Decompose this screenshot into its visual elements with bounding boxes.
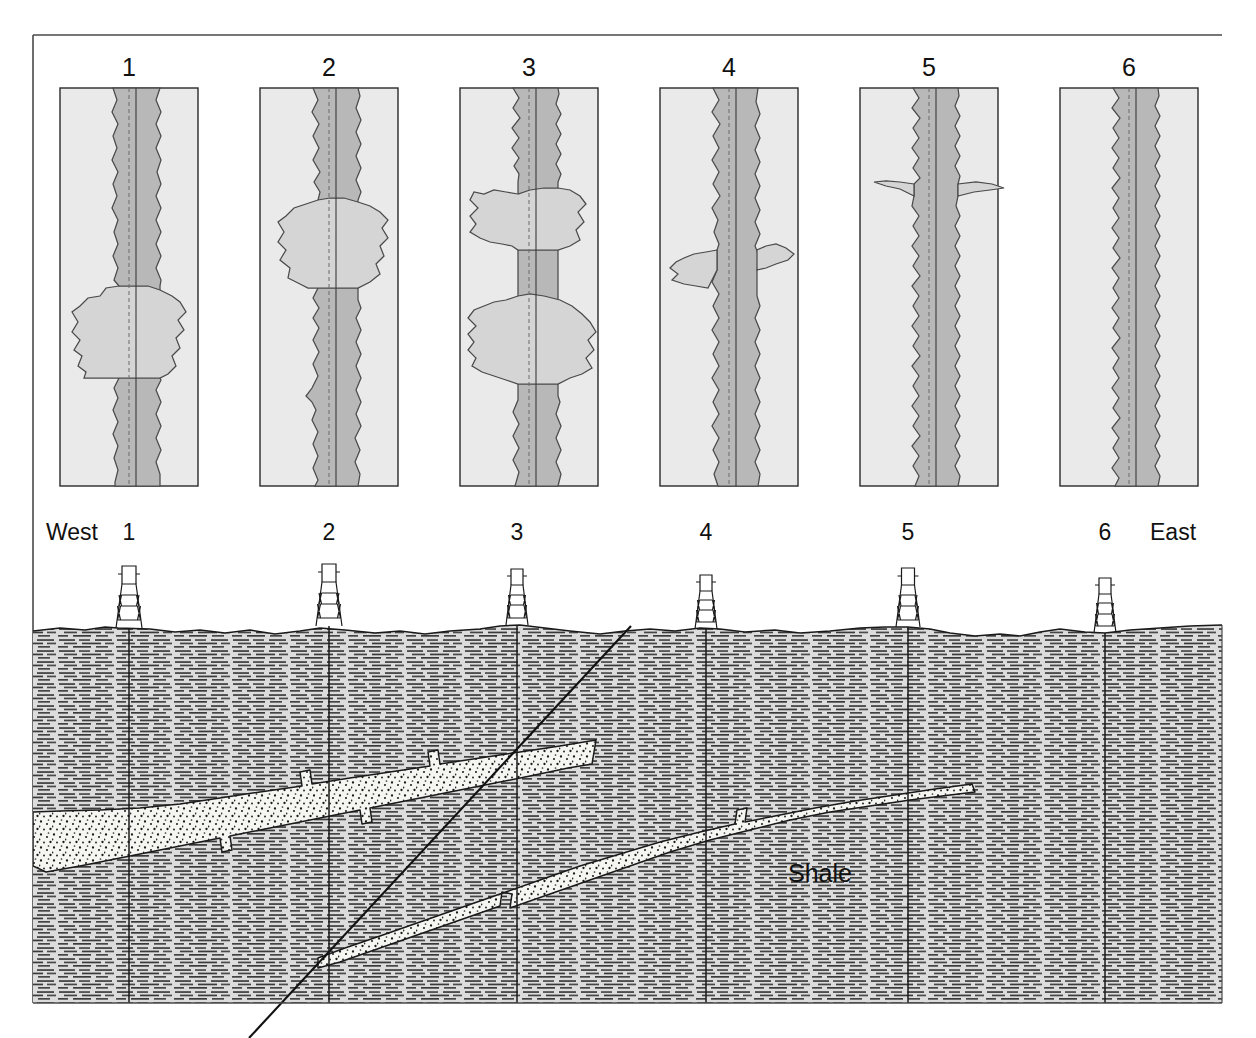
geologic-cross-section-figure: 1 2 3 4 5 6 — [0, 0, 1256, 1038]
east-label: East — [1150, 519, 1197, 545]
log-track-4 — [660, 88, 798, 486]
section-well-label-6: 6 — [1099, 519, 1112, 545]
log-track-6 — [1060, 88, 1198, 486]
section-well-label-3: 3 — [511, 519, 524, 545]
log-panel-label-2: 2 — [322, 53, 336, 81]
log-panel-label-1: 1 — [122, 53, 136, 81]
log-track-3 — [460, 88, 598, 486]
log-sand-curve-2 — [278, 198, 388, 288]
shale-unit-label: Shale — [788, 859, 852, 887]
log-panel-label-3: 3 — [522, 53, 536, 81]
cross-section-body — [33, 625, 1222, 1038]
section-well-label-5: 5 — [902, 519, 915, 545]
west-label: West — [46, 519, 99, 545]
section-well-label-1: 1 — [123, 519, 136, 545]
figure-root: 1 2 3 4 5 6 — [0, 0, 1256, 1038]
log-track-1 — [60, 88, 198, 486]
section-well-label-2: 2 — [323, 519, 336, 545]
log-track-2 — [260, 88, 398, 486]
log-track-5 — [860, 88, 1004, 486]
log-panel-label-6: 6 — [1122, 53, 1136, 81]
log-sand-curve-3-upper — [470, 188, 586, 250]
log-panel-label-5: 5 — [922, 53, 936, 81]
section-well-label-4: 4 — [700, 519, 713, 545]
log-panel-label-4: 4 — [722, 53, 736, 81]
